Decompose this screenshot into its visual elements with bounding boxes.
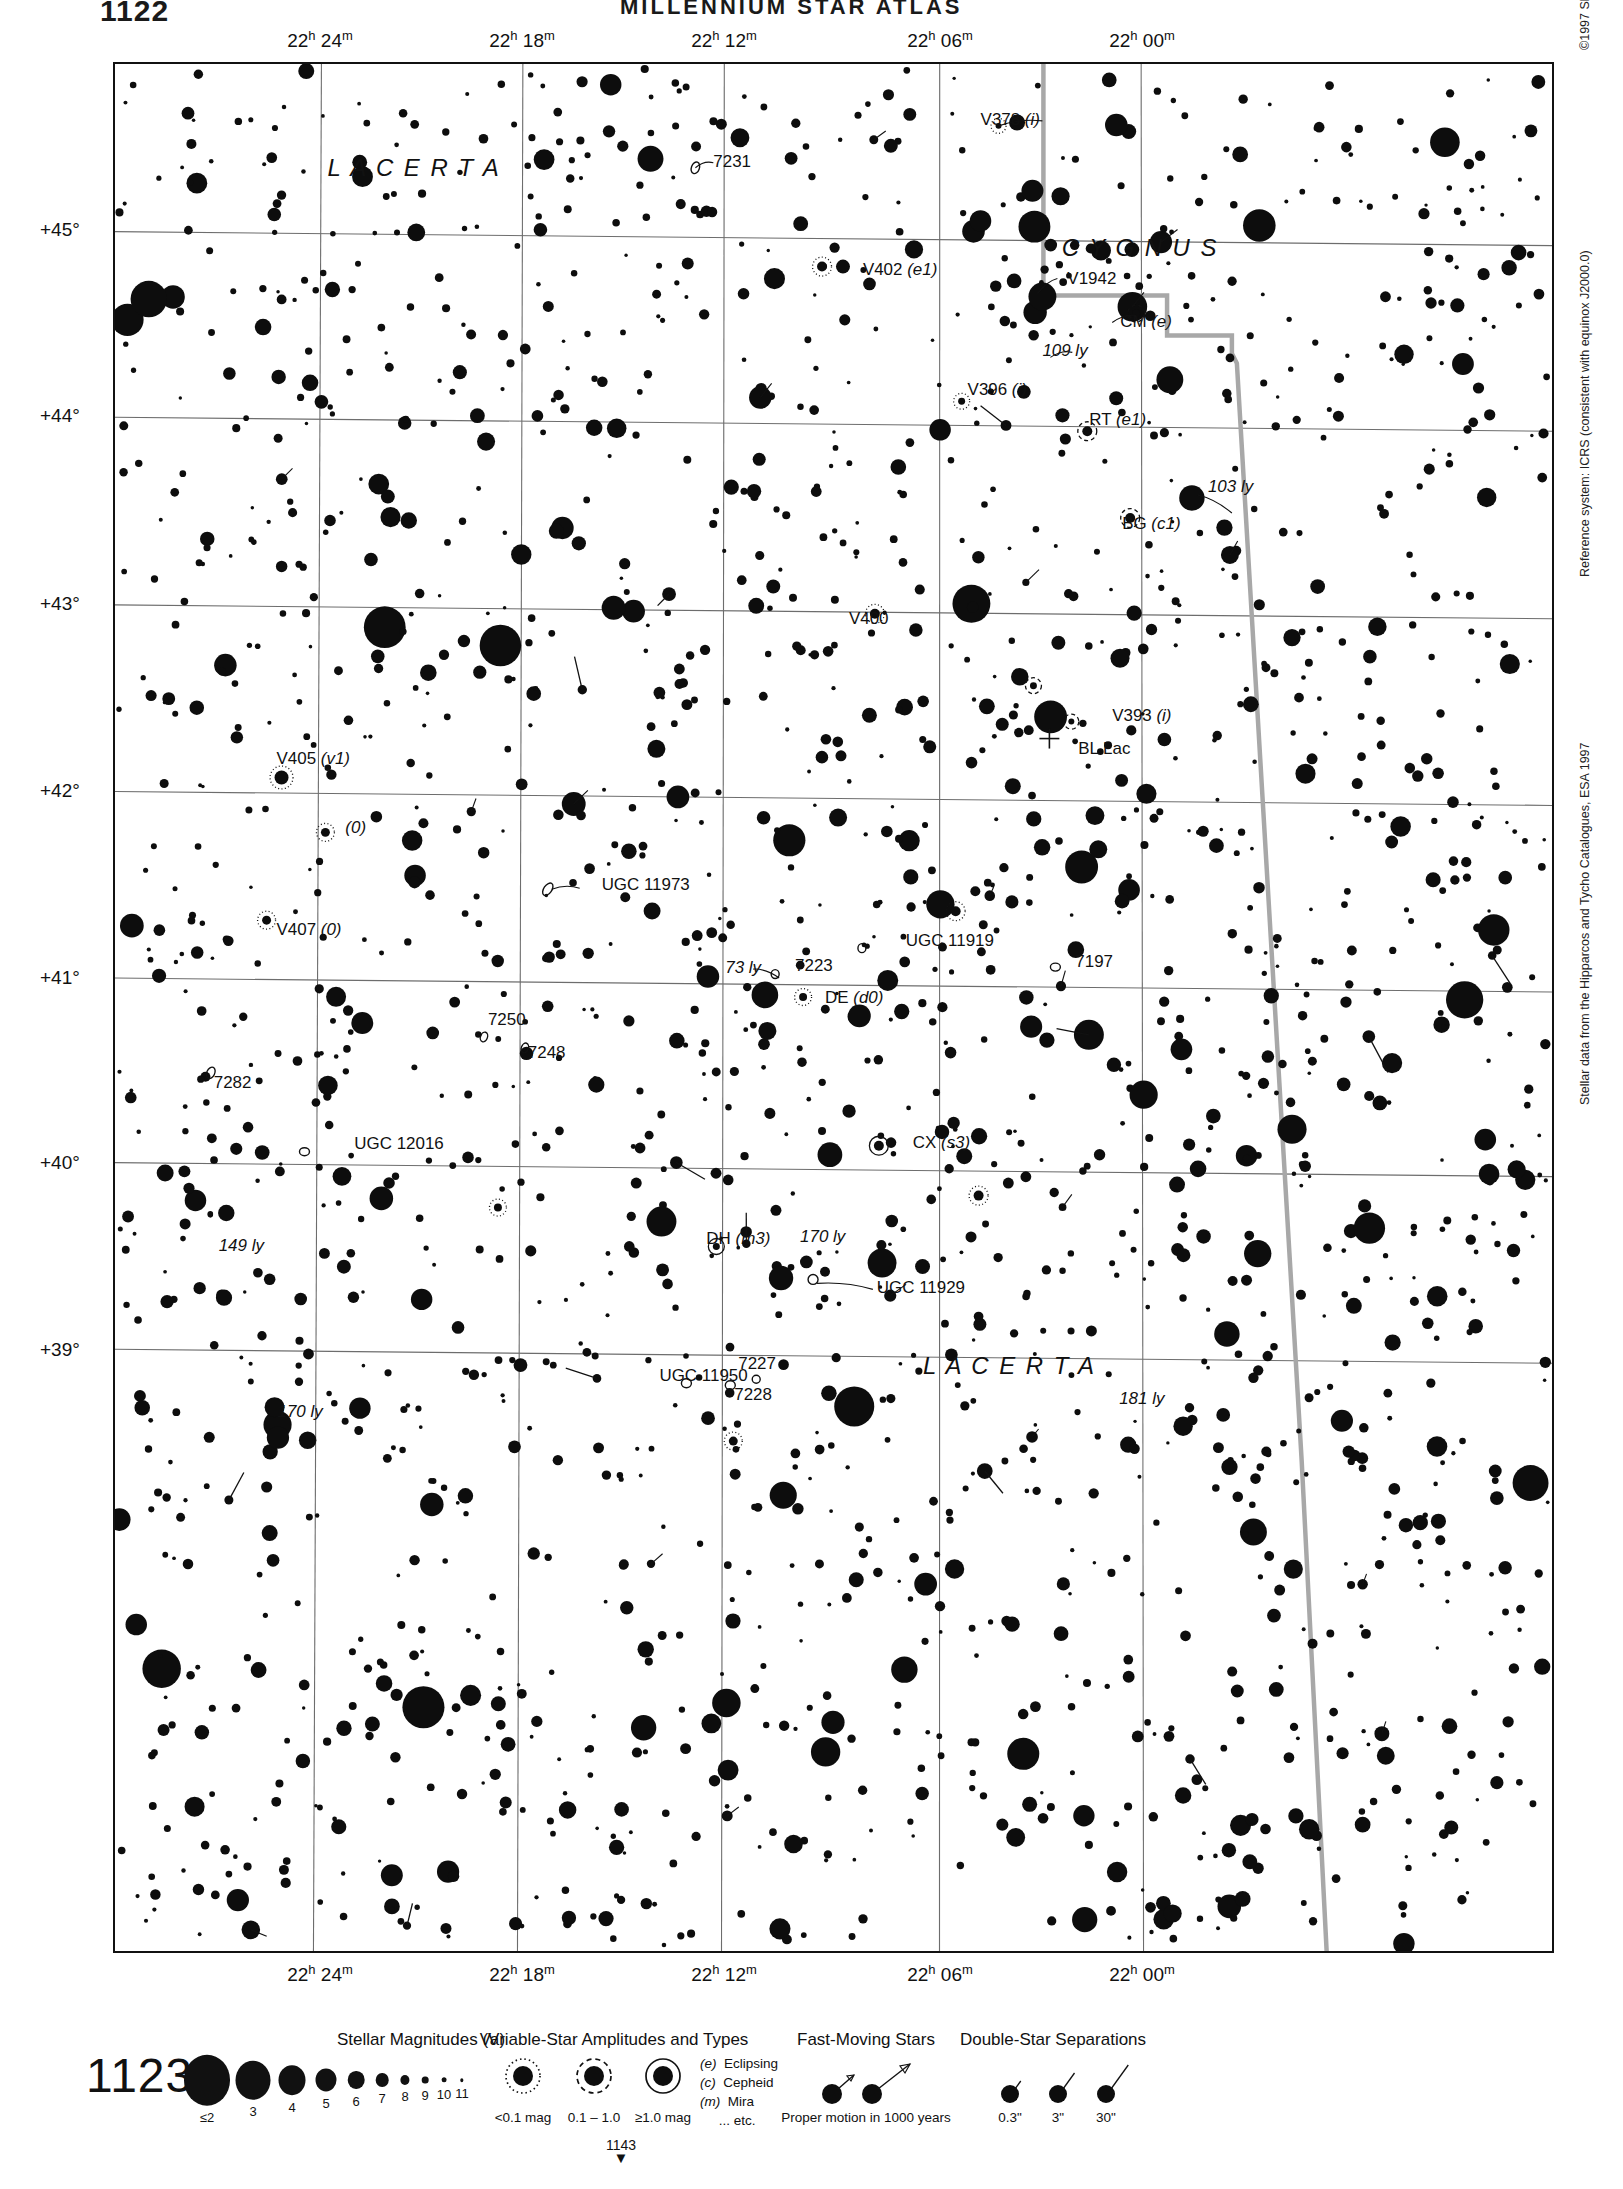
ra-tick-top-4: 22h 00m	[1109, 28, 1175, 52]
object-label-25: UGC 12016	[354, 1134, 443, 1153]
object-label-22: 7250	[488, 1010, 526, 1029]
object-label-29: 170 ly	[800, 1227, 847, 1246]
legend-magnitude-label-5: 7	[378, 2091, 385, 2106]
legend-double-star-label-1: 3"	[1052, 2110, 1064, 2125]
ra-tick-top-1: 22h 18m	[489, 28, 555, 52]
object-label-1: 7231	[713, 152, 751, 171]
legend-magnitude-label-1: 3	[249, 2104, 256, 2119]
legend-magnitude-label-3: 5	[322, 2096, 329, 2111]
chart-number: 1123	[86, 2048, 193, 2103]
object-label-28: DH (m3)	[706, 1229, 770, 1248]
coordinate-grid	[115, 64, 1552, 1951]
sky-plot: L A C E R T AC Y G N U SL A C E R T AV37…	[115, 64, 1552, 1951]
legend-magnitude-label-9: 11	[455, 2086, 469, 2101]
object-label-33: 7228	[734, 1385, 772, 1404]
legend-magnitude-dot-6	[348, 2071, 365, 2089]
chart-legend: 1123 Stellar Magnitudes (V)Variable-Star…	[0, 2018, 1623, 2189]
star-atlas-page: 1122 MILLENNIUM STAR ATLAS 22h 24m22h 18…	[0, 0, 1623, 2189]
object-label-17: UGC 11919	[906, 931, 994, 950]
ra-tick-top-0: 22h 24m	[287, 28, 353, 52]
legend-title-double-stars: Double-Star Separations	[960, 2030, 1146, 2050]
object-label-32: 7227	[738, 1354, 776, 1373]
legend-magnitude-label-7: 9	[421, 2088, 428, 2103]
legend-variable-type-1: (c) Cepheid	[700, 2075, 774, 2090]
object-label-34: 181 ly	[1119, 1389, 1166, 1408]
dec-tick-1: +44°	[40, 405, 80, 427]
object-label-16: V407 (0)	[277, 920, 342, 939]
legend-variable-type-3: ... etc.	[700, 2113, 756, 2128]
object-label-21: DE (d0)	[825, 988, 883, 1007]
dec-tick-2: +43°	[40, 593, 80, 615]
object-label-24: 7282	[214, 1073, 252, 1092]
object-label-14: (0)	[345, 818, 366, 837]
legend-double-star-symbol-1	[1042, 2062, 1082, 2110]
side-credit-0: ©1997 Sky Publishing Corporation	[1578, 0, 1592, 50]
side-credit-1: Reference system: ICRS (consistent with …	[1578, 250, 1592, 577]
legend-variable-type-0: (e) Eclipsing	[700, 2056, 778, 2071]
next-chart-pointer[interactable]: 1143 ▼	[606, 2137, 636, 2162]
dec-tick-4: +41°	[40, 967, 80, 989]
legend-magnitude-label-8: 10	[437, 2087, 451, 2102]
object-label-15: UGC 11973	[602, 875, 690, 894]
atlas-title: MILLENNIUM STAR ATLAS	[620, 0, 962, 20]
legend-variable-label-0: <0.1 mag	[495, 2110, 552, 2125]
object-label-18: 73 ly	[725, 958, 762, 977]
object-label-31: UGC 11950	[659, 1366, 747, 1385]
legend-fast-moving-symbols	[806, 2058, 926, 2114]
legend-double-star-label-0: 0.3"	[998, 2110, 1022, 2125]
constellation-name-2: L A C E R T A	[923, 1352, 1096, 1379]
legend-title-variables: Variable-Star Amplitudes and Types	[480, 2030, 749, 2050]
legend-variable-symbol-1	[570, 2052, 618, 2104]
side-credit-2: Stellar data from the Hipparcos and Tych…	[1578, 743, 1592, 1106]
object-label-0: V378 (i)	[981, 110, 1040, 129]
ra-tick-bottom-4: 22h 00m	[1109, 1962, 1175, 1986]
legend-magnitude-label-6: 8	[401, 2089, 408, 2104]
legend-magnitude-dot-4	[279, 2065, 306, 2095]
legend-double-star-symbol-0	[994, 2062, 1034, 2110]
object-label-2: V402 (e1)	[863, 260, 937, 279]
legend-magnitude-dot-5	[316, 2068, 337, 2091]
legend-magnitude-dot-≤2	[184, 2055, 230, 2106]
page-number: 1122	[100, 0, 169, 28]
ra-tick-top-2: 22h 12m	[691, 28, 757, 52]
legend-double-star-label-2: 30"	[1096, 2110, 1116, 2125]
ra-tick-bottom-1: 22h 18m	[489, 1962, 555, 1986]
object-label-10: V400	[849, 609, 889, 628]
object-label-30: UGC 11929	[877, 1278, 965, 1297]
constellation-names: L A C E R T AC Y G N U SL A C E R T A	[328, 154, 1219, 1379]
object-label-5: 109 ly	[1042, 341, 1089, 360]
sky-chart[interactable]: L A C E R T AC Y G N U SL A C E R T AV37…	[113, 62, 1554, 1953]
chevron-down-icon: ▼	[606, 2153, 636, 2162]
object-label-11: V393 (i)	[1112, 706, 1171, 725]
object-label-8: 103 ly	[1208, 477, 1255, 496]
object-label-26: CX (s3)	[913, 1133, 970, 1152]
ra-tick-bottom-3: 22h 06m	[907, 1962, 973, 1986]
ra-tick-bottom-2: 22h 12m	[691, 1962, 757, 1986]
object-label-12: BL Lac	[1078, 739, 1131, 758]
legend-double-star-symbol-2	[1090, 2062, 1130, 2110]
object-label-9: BG (c1)	[1122, 514, 1180, 533]
legend-magnitude-label-4: 6	[352, 2094, 359, 2109]
legend-variable-label-2: ≥1.0 mag	[635, 2110, 691, 2125]
star-field	[115, 64, 1551, 1951]
object-label-6: V396 (i)	[968, 380, 1027, 399]
object-labels: V378 (i)7231V402 (e1)V1942CM (e)109 lyV3…	[214, 110, 1255, 1421]
legend-magnitude-dot-7	[376, 2073, 389, 2087]
legend-magnitude-dot-9	[422, 2076, 429, 2083]
legend-fast-moving-caption: Proper motion in 1000 years	[781, 2110, 951, 2125]
proper-motion-arrows	[229, 131, 1510, 1936]
ra-tick-top-3: 22h 06m	[907, 28, 973, 52]
legend-variable-symbol-0	[499, 2052, 547, 2104]
legend-magnitude-dot-3	[236, 2061, 271, 2100]
legend-variable-symbol-2	[639, 2052, 687, 2104]
ra-tick-bottom-0: 22h 24m	[287, 1962, 353, 1986]
object-label-35: 170 ly	[278, 1402, 325, 1421]
legend-magnitude-dot-10	[442, 2077, 447, 2082]
object-label-19: 7223	[795, 956, 833, 975]
dec-tick-6: +39°	[40, 1339, 80, 1361]
legend-magnitude-dot-11	[460, 2078, 463, 2082]
object-label-3: V1942	[1067, 269, 1116, 288]
object-label-7: RT (e1)	[1089, 410, 1146, 429]
dec-tick-5: +40°	[40, 1152, 80, 1174]
dec-tick-3: +42°	[40, 780, 80, 802]
